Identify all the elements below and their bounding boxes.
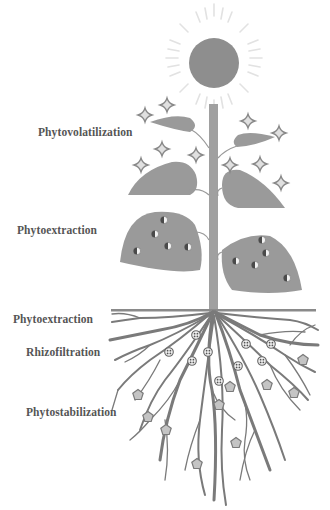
label-phytovolatilization: Phytovolatilization <box>38 126 133 138</box>
phytoremediation-diagram <box>0 0 330 510</box>
sun-icon <box>166 4 262 112</box>
plant-stem <box>209 104 218 312</box>
root-system <box>110 312 318 505</box>
label-phytoextraction-shoot: Phytoextraction <box>17 224 97 236</box>
label-phytostabilization: Phytostabilization <box>26 406 117 418</box>
label-phytoextraction-root: Phytoextraction <box>13 313 93 325</box>
label-rhizofiltration: Rhizofiltration <box>26 346 100 358</box>
